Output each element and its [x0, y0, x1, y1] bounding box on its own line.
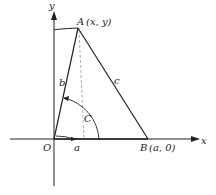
y-axis: [51, 11, 57, 186]
point-A-label: A: [76, 16, 84, 27]
triangle-diagram: y x A (x, y) O B (a, 0) a b c C: [0, 0, 216, 195]
x-axis-arrow-icon: [191, 136, 200, 142]
point-A-coords: (x, y): [86, 16, 112, 27]
x-axis-label: x: [201, 135, 207, 146]
point-B-label: B: [139, 142, 147, 153]
angle-C-arc: [64, 98, 99, 139]
side-b-label: b: [59, 77, 65, 88]
side-b: [54, 28, 78, 139]
top-connector-line: [54, 28, 78, 30]
angle-arc-arrow-icon: [63, 96, 69, 101]
a-arrow-icon: [71, 137, 78, 141]
side-c-label: c: [114, 75, 120, 86]
angle-C-label: C: [84, 113, 92, 124]
point-O-label: O: [43, 142, 51, 153]
point-B-coords: (a, 0): [149, 142, 176, 153]
y-axis-label: y: [48, 0, 55, 11]
y-axis-arrow-icon: [51, 11, 57, 20]
side-a-label: a: [74, 142, 80, 153]
